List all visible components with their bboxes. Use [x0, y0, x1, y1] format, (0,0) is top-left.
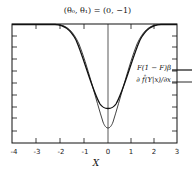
x-axis-label: X: [92, 158, 100, 168]
svg-text:-3: -3: [34, 148, 41, 156]
legend-label-series1: F(1 − F)β: [137, 64, 171, 72]
svg-text:-4: -4: [11, 148, 19, 156]
legend-label-series2: ∂ f̂(Y|x)/∂x: [136, 76, 171, 84]
svg-text:3: 3: [175, 148, 179, 156]
svg-text:-1: -1: [82, 148, 89, 156]
svg-text:1: 1: [129, 148, 133, 156]
svg-text:0: 0: [106, 148, 110, 156]
svg-text:-2: -2: [58, 148, 65, 156]
svg-text:2: 2: [152, 148, 156, 156]
chart-plot: -4 -3 -2 -1 0 1 2 3 X: [0, 0, 195, 171]
x-tick-labels: -4 -3 -2 -1 0 1 2 3: [11, 148, 180, 156]
